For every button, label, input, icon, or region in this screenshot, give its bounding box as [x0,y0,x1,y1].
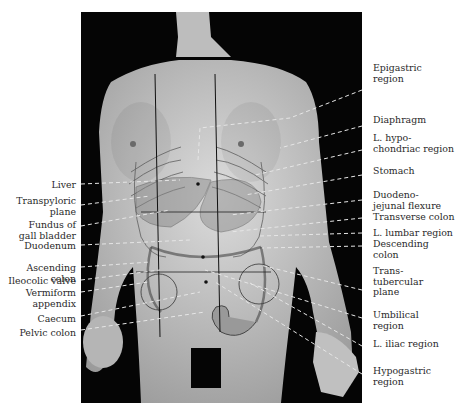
label-l-iliac-region: L. iliac region [373,339,439,350]
label-l-hypochondriac-region: L. hypo- chondriac region [373,133,454,154]
label-transpyloric-plane: Transpyloric plane [16,196,76,217]
label-pelvic-colon: Pelvic colon [19,328,76,339]
label-liver: Liver [51,180,76,191]
label-vermiform-appendix: Vermiform appendix [26,288,76,309]
anatomy-photo [81,12,362,403]
label-descending-colon: Descending colon [373,239,429,260]
label-stomach: Stomach [373,166,415,177]
label-umbilical-region: Umbilical region [373,310,419,331]
label-duodenojejunal-flexure: Duodeno- jejunal flexure [373,190,441,211]
body-figure [81,12,362,403]
label-transtubercular-plane: Trans- tubercular plane [373,266,423,298]
label-diaphragm: Diaphragm [373,115,426,126]
label-caecum: Caecum [38,314,77,325]
label-fundus-gall-bladder: Fundus of gall bladder [19,220,76,241]
label-epigastric-region: Epigastric region [373,63,422,84]
label-l-lumbar-region: L. lumbar region [373,228,453,239]
label-hypogastric-region: Hypogastric region [373,366,431,387]
label-ileocolic-valve: Ileocolic valve [8,276,76,287]
label-duodenum: Duodenum [24,241,76,252]
label-transverse-colon: Transverse colon [373,212,454,223]
